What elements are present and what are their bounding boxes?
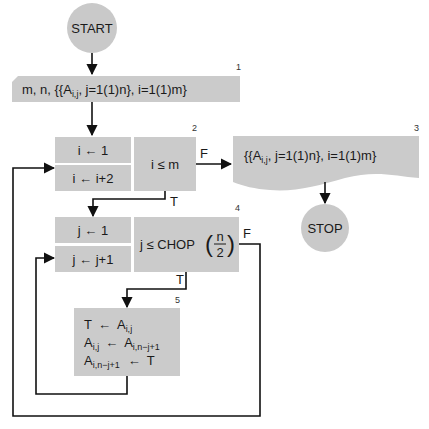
start-node: START <box>67 3 117 53</box>
loop-i-condition: i ≤ m <box>151 157 179 172</box>
node-number-5: 5 <box>175 295 180 305</box>
loop-j-false-label: F <box>243 226 251 241</box>
stop-node: STOP <box>301 204 349 252</box>
loop-i-increment: i ← i+2 <box>73 171 114 186</box>
right-paren: ) <box>227 230 235 257</box>
flowchart: START 1 m, n, {{Ai,j, j=1(1)n}, i=1(1)m}… <box>0 0 429 429</box>
input-text: m, n, {{Ai,j, j=1(1)n}, i=1(1)m} <box>22 82 187 99</box>
swap-line-1: T←Ai,j <box>84 317 132 334</box>
edge-loop-j-false-to-i-increment <box>13 168 260 416</box>
loop-j-true-label: T <box>176 272 184 287</box>
stop-label: STOP <box>307 221 342 236</box>
loop-i-false-label: F <box>200 146 208 161</box>
node-number-3: 3 <box>414 123 419 133</box>
output-node: 3 {{Ai,j, j=1(1)n}, i=1(1)m} <box>233 123 419 190</box>
fraction-numerator: n <box>216 229 223 244</box>
loop-i-true-label: T <box>170 194 178 209</box>
loop-j-node: j ← 1 j ← j+1 j ≤ CHOP ( n 2 ) 4 <box>55 203 240 272</box>
loop-i-node: i ← 1 i ← i+2 i ≤ m 2 <box>55 123 197 191</box>
node-number-2: 2 <box>192 123 197 133</box>
swap-node: 5 T←Ai,j Ai,j←Ai,n−j+1 Ai,n−j+1←T <box>74 295 180 376</box>
loop-j-increment: j ← j+1 <box>72 252 114 267</box>
left-paren: ( <box>205 230 213 257</box>
node-number-1: 1 <box>236 62 241 72</box>
fraction-denominator: 2 <box>216 245 223 260</box>
input-node: 1 m, n, {{Ai,j, j=1(1)n}, i=1(1)m} <box>12 62 241 102</box>
edge-loop-i-true <box>93 191 165 216</box>
loop-j-condition: j ≤ CHOP <box>139 237 195 252</box>
loop-i-init: i ← 1 <box>78 143 108 158</box>
start-label: START <box>71 21 112 36</box>
loop-j-init: j ← 1 <box>77 223 108 238</box>
node-number-4: 4 <box>235 203 240 213</box>
